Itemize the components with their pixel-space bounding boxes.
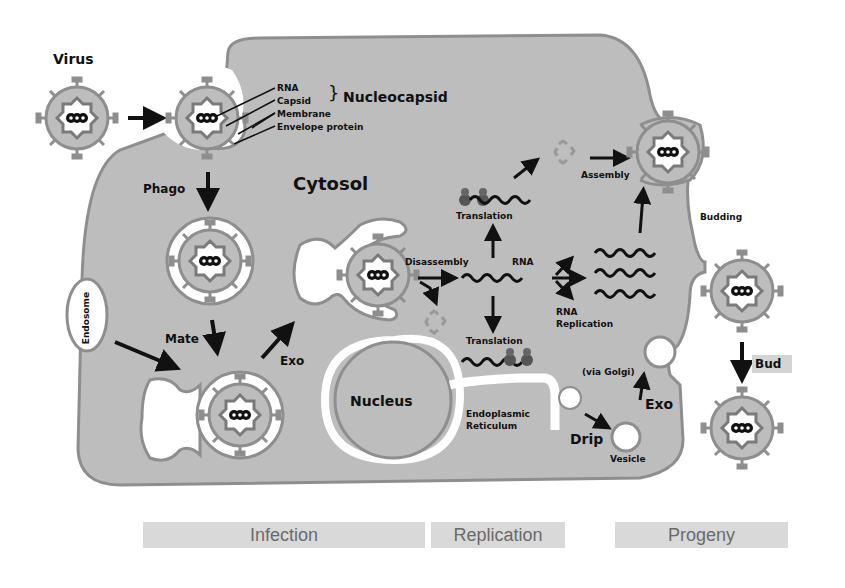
stage-infection: Infection — [143, 522, 425, 548]
label-rna-replication-1: RNA — [556, 308, 577, 317]
label-er-2: Reticulum — [466, 422, 517, 431]
label-rna: RNA — [277, 84, 298, 93]
label-exo-left: Exo — [280, 355, 304, 367]
brace: } — [328, 84, 339, 102]
label-budding: Budding — [700, 213, 742, 222]
stage-progeny: Progeny — [615, 522, 788, 548]
label-cytosol: Cytosol — [293, 175, 368, 193]
label-er-1: Endoplasmic — [466, 410, 530, 419]
label-membrane: Membrane — [277, 110, 331, 119]
label-disassembly: Disassembly — [405, 258, 469, 267]
stage-replication: Replication — [431, 522, 565, 548]
label-vesicle: Vesicle — [610, 455, 646, 464]
label-nucleocapsid: Nucleocapsid — [343, 90, 448, 104]
label-mate: Mate — [165, 333, 199, 345]
label-rna-replication-2: Replication — [556, 320, 613, 329]
progeny-virion — [702, 388, 782, 468]
label-rna-center: RNA — [512, 258, 533, 267]
label-assembly: Assembly — [581, 171, 630, 180]
budding-virion — [702, 251, 782, 331]
label-phago: Phago — [143, 183, 185, 195]
label-endosome: Endosome — [82, 292, 91, 344]
label-translation-top: Translation — [456, 212, 513, 221]
label-exo-right: Exo — [645, 397, 673, 411]
label-nucleus: Nucleus — [350, 394, 413, 408]
label-via-golgi: (via Golgi) — [582, 368, 635, 377]
label-translation-bottom: Translation — [466, 337, 523, 346]
label-bud: Bud — [755, 358, 781, 370]
label-capsid: Capsid — [277, 97, 311, 106]
label-drip: Drip — [570, 432, 603, 446]
virus-particle-outside — [37, 78, 117, 158]
vesicle — [612, 423, 640, 451]
label-envelope-protein: Envelope protein — [277, 123, 363, 132]
label-virus: Virus — [53, 52, 94, 66]
